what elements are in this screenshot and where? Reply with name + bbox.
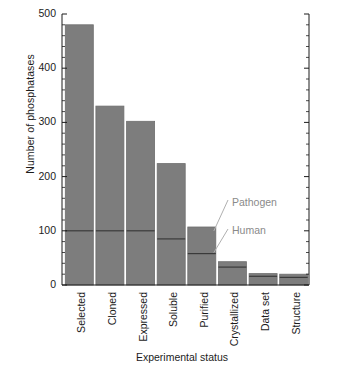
bar-data-set <box>249 274 277 285</box>
bar-purified <box>188 227 216 285</box>
y-tick-label: 100 <box>38 225 56 236</box>
x-tick-label-expressed: Expressed <box>137 292 149 342</box>
bar-expressed <box>127 121 155 285</box>
annotation-pathogen: Pathogen <box>232 196 277 208</box>
x-tick-label-purified: Purified <box>198 292 210 328</box>
x-axis-title: Experimental status <box>52 351 312 363</box>
bar-structure <box>280 274 308 285</box>
y-tick-label: 300 <box>38 116 56 127</box>
x-tick-label-data-set: Data set <box>259 292 271 331</box>
bars-group <box>65 25 307 285</box>
bar-chart-figure: 0100200300400500 SelectedClonedExpressed… <box>0 0 339 379</box>
x-tick-label-crystallized: Crystallized <box>228 292 240 346</box>
bar-soluble <box>157 164 185 285</box>
annotation-human: Human <box>232 224 266 236</box>
bar-cloned <box>96 106 124 285</box>
leader-line-pathogen <box>214 200 228 231</box>
x-tick-label-structure: Structure <box>290 292 302 335</box>
x-tick-label-cloned: Cloned <box>106 292 118 325</box>
x-tick-label-selected: Selected <box>75 292 87 333</box>
y-tick-label: 500 <box>38 8 56 19</box>
y-axis-title: Number of phosphatases <box>24 24 36 204</box>
x-tick-label-soluble: Soluble <box>167 292 179 327</box>
bar-selected <box>65 25 93 285</box>
y-tick-label: 400 <box>38 62 56 73</box>
y-tick-label: 0 <box>50 279 56 290</box>
y-tick-label: 200 <box>38 171 56 182</box>
bar-crystallized <box>218 262 246 285</box>
